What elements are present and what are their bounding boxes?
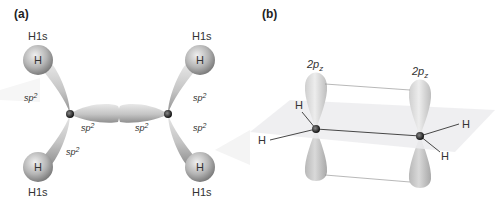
molecular-plane <box>250 100 495 152</box>
sp2-label-right-upper: sp2 <box>193 92 207 103</box>
sp2-label-cc-left: sp2 <box>81 122 95 133</box>
h-atom-bottom-right: H <box>185 152 215 182</box>
svg-text:H: H <box>196 161 204 173</box>
h1s-label-top-right: H1s <box>192 30 212 42</box>
h-atom-top-left: H <box>23 45 53 75</box>
panel-b: (b) H H H H 2pz <box>250 7 495 188</box>
svg-text:H: H <box>196 54 204 66</box>
h-label-right-2: H <box>441 150 449 162</box>
2pz-label-right: 2pz <box>411 65 428 80</box>
svg-text:H: H <box>34 54 42 66</box>
h1s-label-bottom-left: H1s <box>28 186 48 198</box>
h1s-label-bottom-right: H1s <box>192 186 212 198</box>
panel-a-label: (a) <box>14 7 29 21</box>
2pz-label-left: 2pz <box>306 58 323 73</box>
sp2-sigma-bond-lobes <box>70 104 168 123</box>
h-label-right-1: H <box>462 118 470 130</box>
panel-b-label: (b) <box>262 7 277 21</box>
carbon-nucleus-b-right <box>416 132 424 140</box>
sp2-lobe-right-cc <box>119 104 169 123</box>
h-atom-bottom-left: H <box>23 152 53 182</box>
overlap-line-bottom <box>325 175 410 182</box>
carbon-nucleus-left <box>66 110 74 118</box>
sp2-label-left-lower: sp2 <box>66 146 80 157</box>
plane-hint-right <box>215 130 250 165</box>
sp2-label-right-lower: sp2 <box>193 122 207 133</box>
panel-a: (a) H H H H <box>0 7 250 198</box>
h-label-left-1: H <box>258 134 266 146</box>
h-atom-top-right: H <box>185 45 215 75</box>
carbon-nucleus-b-left <box>312 125 320 133</box>
svg-text:H: H <box>34 161 42 173</box>
ethylene-orbital-diagram: (a) H H H H <box>0 0 498 214</box>
sp2-lobe-left-cc <box>70 104 120 123</box>
sp2-label-cc-right: sp2 <box>135 122 149 133</box>
overlap-line-top <box>325 84 410 90</box>
h1s-label-top-left: H1s <box>28 30 48 42</box>
carbon-nucleus-right <box>164 110 172 118</box>
h-label-left-2: H <box>295 99 303 111</box>
